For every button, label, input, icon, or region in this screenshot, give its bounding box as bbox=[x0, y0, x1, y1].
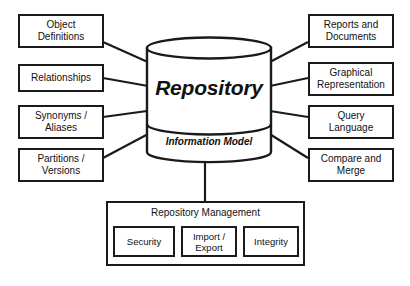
node-graphical-representation-label: Graphical Representation bbox=[315, 67, 387, 91]
node-object-definitions-label: Object Definitions bbox=[36, 19, 87, 43]
repository-architecture-diagram: Repository Information Model Object Defi… bbox=[0, 0, 410, 286]
node-query-language-label: Query Language bbox=[327, 110, 376, 134]
node-import-export[interactable]: Import / Export bbox=[181, 226, 237, 257]
connector-synonyms-aliases bbox=[103, 111, 147, 117]
information-model-label: Information Model bbox=[147, 136, 271, 148]
node-compare-merge-label: Compare and Merge bbox=[319, 153, 384, 177]
node-reports-documents-label: Reports and Documents bbox=[322, 19, 380, 43]
connector-reports-documents bbox=[268, 42, 308, 63]
node-compare-merge[interactable]: Compare and Merge bbox=[308, 148, 394, 182]
node-import-export-label: Import / Export bbox=[183, 231, 235, 253]
connector-compare-merge bbox=[268, 133, 308, 158]
node-reports-documents[interactable]: Reports and Documents bbox=[308, 14, 394, 48]
node-integrity[interactable]: Integrity bbox=[243, 226, 299, 257]
node-relationships[interactable]: Relationships bbox=[18, 64, 104, 92]
connector-object-definitions bbox=[103, 42, 150, 63]
node-synonyms-aliases[interactable]: Synonyms / Aliases bbox=[18, 105, 104, 139]
cylinder-top-ellipse bbox=[147, 38, 271, 59]
node-synonyms-aliases-label: Synonyms / Aliases bbox=[33, 110, 89, 134]
node-graphical-representation[interactable]: Graphical Representation bbox=[308, 62, 394, 96]
node-partitions-versions[interactable]: Partitions / Versions bbox=[18, 148, 104, 182]
connector-graphical-representation bbox=[270, 78, 308, 86]
node-security-label: Security bbox=[127, 236, 161, 247]
node-integrity-label: Integrity bbox=[254, 236, 288, 247]
node-security[interactable]: Security bbox=[113, 226, 175, 257]
connector-partitions-versions bbox=[103, 133, 150, 158]
node-object-definitions[interactable]: Object Definitions bbox=[18, 14, 104, 48]
repository-title: Repository bbox=[147, 76, 271, 100]
node-query-language[interactable]: Query Language bbox=[308, 105, 394, 139]
node-relationships-label: Relationships bbox=[29, 72, 93, 84]
connector-relationships bbox=[103, 78, 148, 86]
node-partitions-versions-label: Partitions / Versions bbox=[35, 153, 86, 177]
connector-query-language bbox=[270, 111, 308, 117]
repository-management-title: Repository Management bbox=[108, 207, 303, 219]
repository-management-group[interactable]: Repository Management Security Import / … bbox=[106, 201, 305, 266]
